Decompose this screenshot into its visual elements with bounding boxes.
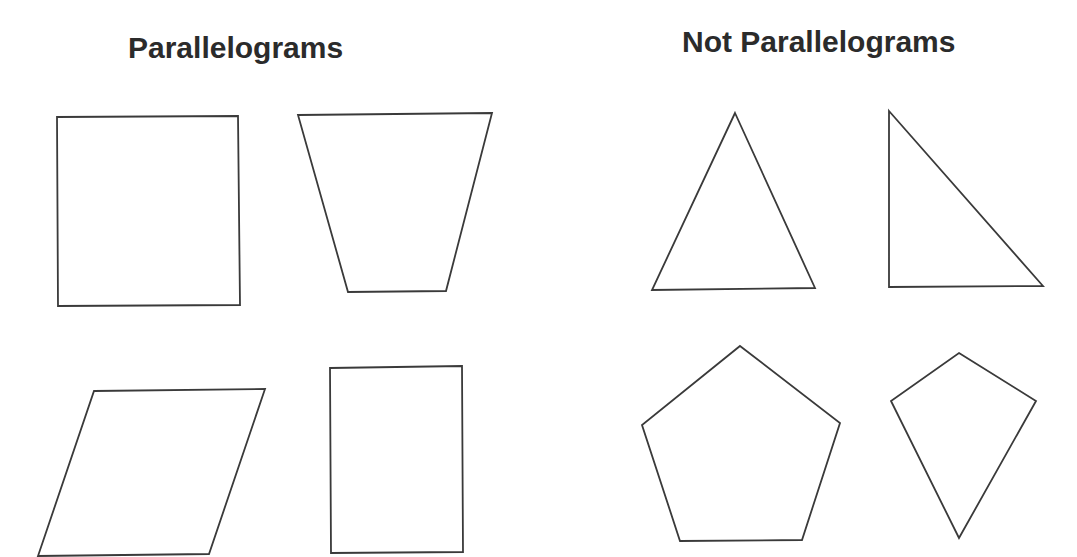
rectangle-shape [330,366,463,553]
square-shape [57,116,240,306]
acute-triangle-shape [652,113,815,290]
slanted-parallelogram-shape [38,389,265,556]
right-triangle-shape [889,111,1043,287]
not-parallelograms-group [642,111,1043,541]
kite-shape [891,353,1036,538]
pentagon-shape [642,346,840,541]
trapezoid-shape [298,113,492,292]
parallelograms-group [38,113,492,556]
shapes-canvas [0,0,1077,557]
